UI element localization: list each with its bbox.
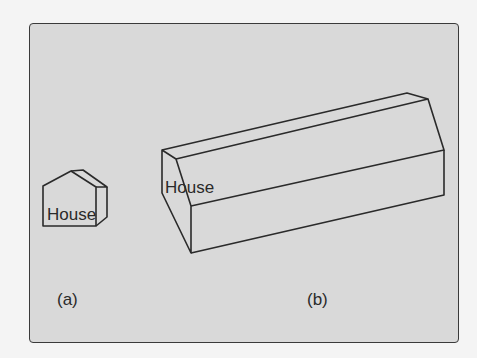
long-house-front-face xyxy=(162,150,191,253)
small-house-side-wall xyxy=(96,187,107,226)
panel-a: House (a) xyxy=(43,170,107,309)
panel-a-caption: (a) xyxy=(57,290,78,309)
figure-canvas: House (a) House (b) xyxy=(0,0,477,358)
small-house-roof-side xyxy=(71,170,107,187)
panel-b-caption: (b) xyxy=(307,290,328,309)
small-house-label: House xyxy=(47,205,96,224)
long-house-shape xyxy=(162,93,444,253)
long-house-side-wall xyxy=(191,150,444,253)
long-house-label: House xyxy=(165,178,214,197)
long-house-roof-ridge xyxy=(162,93,428,159)
long-house-roof-slope xyxy=(191,99,444,206)
panel-b: House (b) xyxy=(162,93,444,309)
